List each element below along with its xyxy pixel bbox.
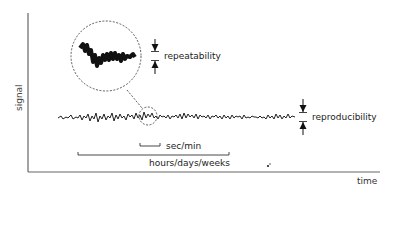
sec-min-bracket	[140, 143, 160, 146]
stray-mark	[269, 163, 270, 164]
y-axis-label: signal	[14, 84, 24, 111]
reproducibility-label: reproducibility	[312, 112, 377, 122]
zoom-connector-line	[127, 90, 142, 108]
hours-days-weeks-label: hours/days/weeks	[149, 158, 230, 168]
repeatability-arrows-icon	[151, 39, 159, 74]
stray-mark	[267, 165, 269, 167]
sec-min-label: sec/min	[166, 141, 201, 151]
reproducibility-arrows-icon	[299, 99, 307, 135]
repeatability-label: repeatability	[164, 51, 221, 61]
sample-region-circle	[139, 107, 157, 125]
magnified-trace	[80, 44, 135, 66]
signal-trace	[58, 112, 295, 122]
x-axis-label: time	[357, 176, 377, 186]
hours-days-weeks-bracket	[78, 152, 229, 155]
